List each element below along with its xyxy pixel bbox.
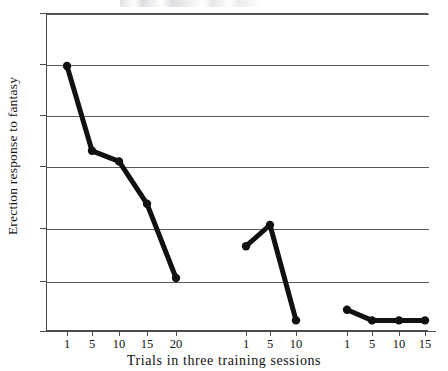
xtick-mark-s1-10: [119, 331, 120, 336]
ytick-mark-10: [40, 228, 46, 229]
figure-chart: 30 25 20 15 10 5 0 Erection response to …: [0, 0, 448, 371]
ytick-mark-30: [40, 13, 46, 14]
xtick-label-s2-5: 5: [267, 338, 273, 351]
xtick-label-s3-10: 10: [393, 338, 406, 351]
xtick-label-s1-15: 15: [141, 338, 154, 351]
xtick-label-s3-1: 1: [344, 338, 350, 351]
y-axis-label: Erection response to fantasy: [5, 41, 21, 271]
gridline-30: [47, 14, 429, 15]
xtick-label-s3-5: 5: [369, 338, 375, 351]
xtick-mark-s2-10: [296, 331, 297, 336]
xtick-label-s2-1: 1: [243, 338, 249, 351]
xtick-mark-s2-1: [246, 331, 247, 336]
xtick-label-s2-10: 10: [290, 338, 303, 351]
ytick-mark-25: [40, 64, 46, 65]
xtick-label-s1-5: 5: [89, 338, 95, 351]
gridline-25: [47, 65, 429, 66]
x-axis-label: Trials in three training sessions: [0, 353, 448, 369]
xtick-label-s1-10: 10: [113, 338, 126, 351]
xtick-label-s3-15: 15: [419, 338, 432, 351]
xtick-label-s1-1: 1: [64, 338, 70, 351]
scan-artifact: [120, 0, 280, 7]
plot-area: [46, 13, 428, 331]
xtick-mark-s3-5: [372, 331, 373, 336]
xtick-mark-s1-20: [176, 331, 177, 336]
x-axis-line: [46, 331, 436, 332]
xtick-mark-s3-10: [399, 331, 400, 336]
xtick-mark-s1-15: [147, 331, 148, 336]
ytick-mark-5: [40, 281, 46, 282]
xtick-mark-s2-5: [270, 331, 271, 336]
gridline-15: [47, 167, 429, 168]
ytick-mark-15: [40, 166, 46, 167]
xtick-mark-s3-15: [425, 331, 426, 336]
xtick-mark-s1-5: [92, 331, 93, 336]
gridline-5: [47, 282, 429, 283]
xtick-mark-s3-1: [347, 331, 348, 336]
gridline-20: [47, 116, 429, 117]
xtick-mark-s1-1: [67, 331, 68, 336]
xtick-label-s1-20: 20: [170, 338, 183, 351]
gridline-10: [47, 229, 429, 230]
ytick-mark-20: [40, 115, 46, 116]
